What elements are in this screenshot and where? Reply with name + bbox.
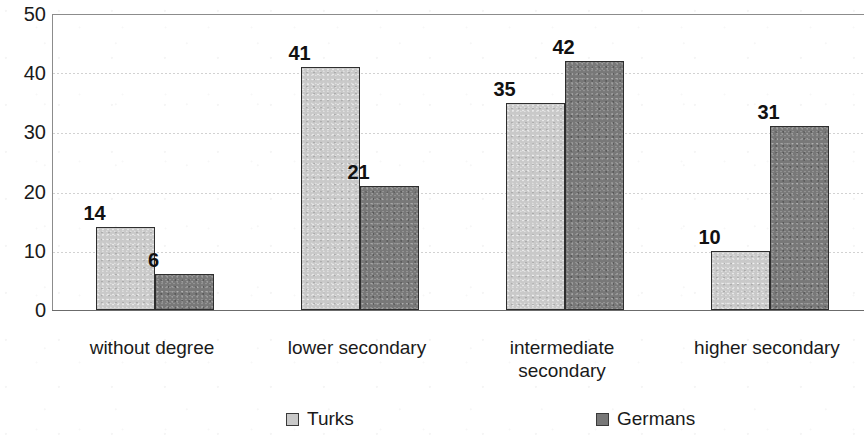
value-label-turks-higher-secondary: 10 (680, 227, 739, 247)
y-tick-0: 0 (2, 300, 46, 320)
legend: Turks Germans (0, 408, 864, 438)
value-label-germans-intermediate-secondary: 42 (534, 37, 593, 57)
category-label-higher-secondary: higher secondary (668, 336, 864, 359)
x-axis-baseline (52, 310, 864, 311)
legend-label-germans: Germans (617, 408, 695, 430)
value-label-turks-without-degree: 14 (65, 203, 124, 223)
bar-germans-without-degree (155, 274, 214, 310)
gridline-20 (53, 193, 864, 194)
legend-item-germans[interactable]: Germans (596, 408, 695, 430)
bar-germans-intermediate-secondary (565, 61, 624, 310)
y-tick-50: 50 (2, 4, 46, 24)
value-label-turks-lower-secondary: 41 (270, 43, 329, 63)
bar-turks-intermediate-secondary (506, 103, 565, 310)
value-label-turks-intermediate-secondary: 35 (475, 79, 534, 99)
value-label-germans-higher-secondary: 31 (739, 102, 798, 122)
bar-germans-lower-secondary (360, 186, 419, 310)
grouped-bar-chart: 50 40 30 20 10 0 14 6 41 21 35 42 10 31 … (0, 0, 864, 441)
gridline-30 (53, 133, 864, 134)
legend-swatch-turks-icon (286, 413, 299, 426)
category-label-without-degree: without degree (53, 336, 251, 359)
y-tick-20: 20 (2, 182, 46, 202)
y-tick-30: 30 (2, 122, 46, 142)
category-label-lower-secondary: lower secondary (258, 336, 456, 359)
bar-turks-higher-secondary (711, 251, 770, 310)
bar-turks-lower-secondary (301, 67, 360, 310)
y-tick-10: 10 (2, 241, 46, 261)
category-label-intermediate-secondary: intermediate secondary (463, 336, 661, 382)
bar-germans-higher-secondary (770, 126, 829, 310)
value-label-germans-without-degree: 6 (124, 250, 183, 270)
y-tick-40: 40 (2, 63, 46, 83)
legend-label-turks: Turks (307, 408, 354, 430)
y-axis: 50 40 30 20 10 0 (0, 0, 46, 441)
value-label-germans-lower-secondary: 21 (329, 162, 388, 182)
gridline-40 (53, 73, 864, 74)
legend-item-turks[interactable]: Turks (286, 408, 354, 430)
legend-swatch-germans-icon (596, 413, 609, 426)
